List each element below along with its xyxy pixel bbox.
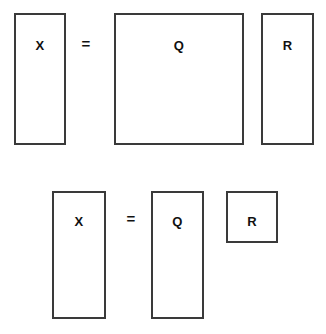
matrix-label-q-reduced: Q	[153, 215, 202, 228]
matrix-block-x-full: X	[14, 13, 66, 145]
matrix-block-r-reduced: R	[226, 191, 278, 243]
matrix-block-x-reduced: X	[52, 191, 106, 319]
matrix-label-x-reduced: X	[54, 215, 104, 228]
matrix-block-r-full: R	[261, 13, 314, 145]
qr-decomposition-diagram: X = Q R X = Q R	[0, 0, 326, 334]
matrix-label-r-reduced: R	[228, 215, 276, 228]
equals-sign-full-qr: =	[76, 36, 96, 51]
matrix-block-q-full: Q	[114, 13, 244, 145]
matrix-label-q-full: Q	[116, 39, 242, 52]
matrix-label-x-full: X	[16, 39, 64, 52]
matrix-label-r-full: R	[263, 39, 312, 52]
matrix-block-q-reduced: Q	[151, 191, 204, 319]
equals-sign-reduced-qr: =	[121, 211, 141, 226]
